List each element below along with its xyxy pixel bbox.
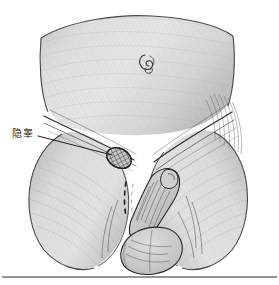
figure-page: 隐睾	[0, 0, 279, 285]
abdominal-wall	[38, 16, 240, 136]
callout-label-cryptorchidism: 隐睾	[12, 128, 33, 140]
anatomical-illustration	[0, 0, 279, 285]
